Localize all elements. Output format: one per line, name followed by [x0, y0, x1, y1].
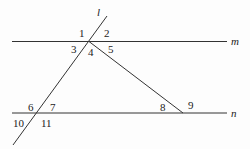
angle-label-9: 9 — [188, 99, 194, 111]
angle-label-4: 4 — [88, 46, 94, 58]
angle-label-6: 6 — [28, 101, 34, 113]
angle-labels: 1234567891011 — [13, 27, 194, 129]
angle-label-7: 7 — [50, 101, 56, 113]
angle-label-10: 10 — [13, 117, 25, 129]
line-label-m: m — [231, 35, 239, 47]
angle-label-8: 8 — [160, 101, 166, 113]
diagram-svg: lmn 1234567891011 — [0, 0, 250, 149]
angle-label-1: 1 — [79, 27, 85, 39]
angle-label-3: 3 — [71, 43, 77, 55]
transversal-line — [89, 42, 183, 114]
angle-label-2: 2 — [104, 27, 110, 39]
line-label-l: l — [97, 6, 100, 18]
angle-label-11: 11 — [41, 117, 52, 129]
line-label-n: n — [231, 107, 237, 119]
angle-label-5: 5 — [108, 43, 114, 55]
line-l — [13, 16, 107, 145]
geometry-diagram: lmn 1234567891011 — [0, 0, 250, 149]
